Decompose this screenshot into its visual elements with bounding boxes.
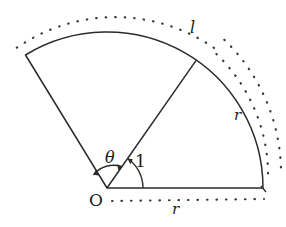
radius-right-label: r xyxy=(234,108,241,123)
arc-length-label: l xyxy=(190,20,195,36)
radius-bottom-label: r xyxy=(172,202,179,217)
theta-label: θ xyxy=(105,150,115,166)
unit-radian-label: 1 xyxy=(135,153,146,170)
unit-radian-radius-line xyxy=(107,60,196,188)
radius-right-dotted-outer xyxy=(224,40,281,176)
radius-bottom-dotted-guide xyxy=(112,199,264,201)
sector-svg xyxy=(0,0,286,227)
sector-diagram: O θ 1 l r r xyxy=(0,0,286,227)
origin-label: O xyxy=(89,192,103,209)
